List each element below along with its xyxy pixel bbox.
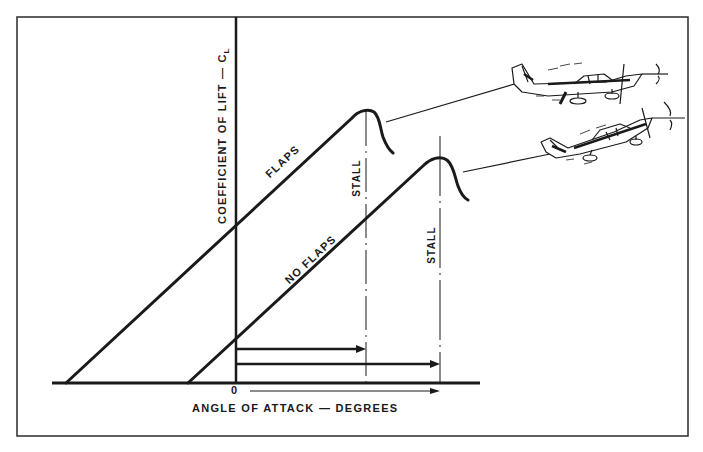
- y-axis-label-subscript: L: [222, 47, 231, 53]
- flaps-stall-label: STALL: [351, 156, 365, 200]
- x-direction-arrowhead-icon: [430, 388, 440, 394]
- figure-frame: [17, 17, 688, 436]
- x-axis-label: ANGLE OF ATTACK — DEGREES: [192, 402, 398, 414]
- no-flaps-stall-label: STALL: [426, 223, 440, 267]
- airplane-nose-up-icon: [541, 102, 685, 164]
- flaps-airplane-connector: [386, 83, 518, 122]
- lift-vs-angle-of-attack-diagram: [0, 0, 703, 452]
- no-flaps-range-arrowhead-icon: [430, 360, 440, 368]
- y-axis-label: COEFFICIENT OF LIFT — CL: [216, 54, 230, 224]
- y-axis-label-text: COEFFICIENT OF LIFT — C: [216, 53, 228, 224]
- flaps-range-arrowhead-icon: [356, 345, 366, 353]
- no-flaps-airplane-connector: [463, 154, 550, 172]
- airplane-level-icon: [512, 63, 668, 104]
- origin-label: 0: [231, 384, 238, 396]
